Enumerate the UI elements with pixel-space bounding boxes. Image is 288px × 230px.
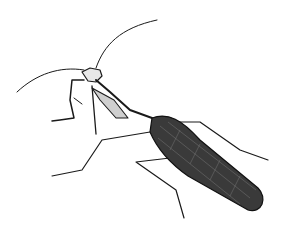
- mantis-illustration: [0, 0, 288, 230]
- foreleg-left: [52, 80, 84, 121]
- foreleg-claw: [74, 98, 82, 104]
- head: [82, 68, 102, 82]
- mantis-drawing: [0, 0, 288, 230]
- antenna-right: [96, 20, 157, 68]
- middle-leg-left: [52, 132, 150, 176]
